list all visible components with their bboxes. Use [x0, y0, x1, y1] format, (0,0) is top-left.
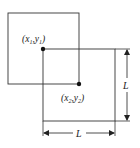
point-2-label: (x2,y2) — [61, 93, 84, 104]
horizontal-dimension-label: L — [75, 128, 82, 139]
point-2-marker — [77, 82, 81, 86]
overlapping-squares-diagram: (x1,y1) (x2,y2) L L — [0, 0, 140, 148]
point-1-marker — [41, 47, 45, 51]
vertical-dimension-label: L — [122, 80, 129, 91]
point-1-label: (x1,y1) — [22, 34, 45, 45]
